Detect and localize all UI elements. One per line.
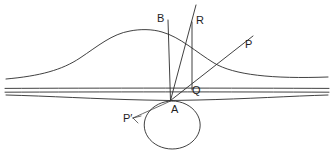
- point-label-b: B: [157, 13, 164, 24]
- point-label-q: Q: [192, 85, 201, 96]
- ray-a-to-p: [171, 36, 254, 101]
- optics-diagram-svg: [0, 0, 334, 153]
- bell-curve-path: [6, 30, 328, 79]
- lower-curve-path: [6, 95, 328, 101]
- point-label-a: A: [171, 104, 178, 115]
- point-label-p-prime: P′: [123, 113, 132, 124]
- figure-root: B R P Q A P′: [0, 0, 334, 153]
- point-label-p: P: [245, 39, 252, 50]
- arc-to-p-prime: [133, 101, 171, 118]
- point-label-r: R: [196, 15, 204, 26]
